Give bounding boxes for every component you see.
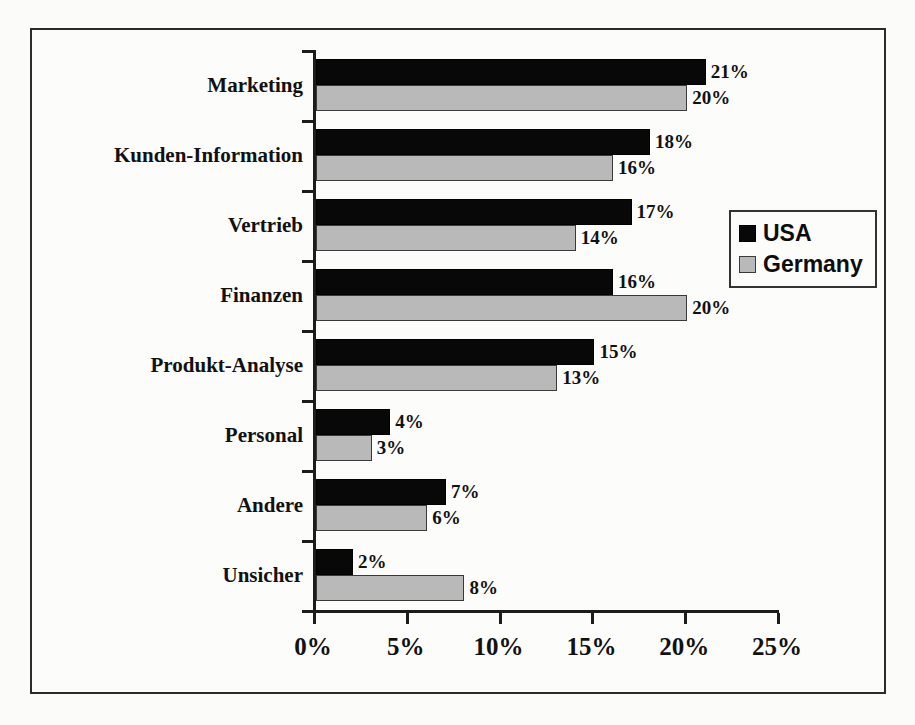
bar-germany[interactable] [316, 295, 687, 321]
bar-group: 21%20% [316, 59, 777, 111]
category-tick [302, 50, 313, 53]
category-label: Marketing [207, 73, 303, 98]
bar-usa[interactable] [316, 269, 613, 295]
bar-germany[interactable] [316, 435, 372, 461]
bar-group: 18%16% [316, 129, 777, 181]
bar-value-label: 16% [613, 271, 656, 293]
x-tick [313, 613, 316, 624]
bar-usa[interactable] [316, 479, 446, 505]
bar-usa[interactable] [316, 409, 390, 435]
bar-group: 15%13% [316, 339, 777, 391]
bar-value-label: 21% [706, 61, 749, 83]
category-label: Vertrieb [228, 213, 303, 238]
category-label: Unsicher [223, 563, 304, 588]
bar-usa[interactable] [316, 339, 594, 365]
category-tick [302, 470, 313, 473]
bar-value-label: 6% [427, 507, 461, 529]
category-tick [302, 610, 313, 613]
category-tick [302, 260, 313, 263]
bar-row: 4% [316, 409, 777, 435]
bar-germany[interactable] [316, 505, 427, 531]
category-label: Kunden-Information [114, 143, 303, 168]
category-label: Produkt-Analyse [151, 353, 303, 378]
category-tick [302, 330, 313, 333]
chart-frame: MarketingKunden-InformationVertriebFinan… [30, 28, 886, 694]
x-tick-label: 25% [752, 633, 802, 661]
x-tick [591, 613, 594, 624]
bar-row: 21% [316, 59, 777, 85]
chart-legend: USA Germany [729, 210, 877, 288]
bar-value-label: 8% [464, 577, 498, 599]
bar-value-label: 14% [576, 227, 619, 249]
x-tick-label: 15% [566, 633, 616, 661]
bar-value-label: 17% [632, 201, 675, 223]
black-square-swatch-icon [739, 225, 756, 242]
bar-germany[interactable] [316, 85, 687, 111]
bar-value-label: 18% [650, 131, 693, 153]
bar-value-label: 20% [687, 297, 730, 319]
bar-value-label: 7% [446, 481, 480, 503]
category-label: Personal [225, 423, 303, 448]
category-tick [302, 190, 313, 193]
x-tick [406, 613, 409, 624]
bar-germany[interactable] [316, 155, 613, 181]
bar-row: 13% [316, 365, 777, 391]
bar-group: 4%3% [316, 409, 777, 461]
legend-label-germany: Germany [763, 253, 863, 276]
bar-row: 16% [316, 155, 777, 181]
bar-row: 16% [316, 269, 777, 295]
category-label: Andere [237, 493, 303, 518]
screenshot-page: MarketingKunden-InformationVertriebFinan… [0, 0, 915, 725]
bar-usa[interactable] [316, 59, 706, 85]
category-label: Finanzen [220, 283, 303, 308]
category-tick [302, 540, 313, 543]
legend-label-usa: USA [763, 222, 812, 245]
plot-area: 21%20%18%16%17%14%16%20%15%13%4%3%7%6%2%… [313, 50, 777, 610]
category-axis-labels: MarketingKunden-InformationVertriebFinan… [32, 50, 303, 610]
x-tick [499, 613, 502, 624]
bar-germany[interactable] [316, 225, 576, 251]
legend-item-germany: Germany [739, 249, 867, 280]
bar-usa[interactable] [316, 199, 632, 225]
bar-value-label: 2% [353, 551, 387, 573]
bar-usa[interactable] [316, 129, 650, 155]
legend-item-usa: USA [739, 218, 867, 249]
bar-row: 8% [316, 575, 777, 601]
bar-row: 2% [316, 549, 777, 575]
bar-group: 17%14% [316, 199, 777, 251]
x-tick-label: 20% [659, 633, 709, 661]
bar-row: 20% [316, 295, 777, 321]
bar-row: 18% [316, 129, 777, 155]
bar-group: 7%6% [316, 479, 777, 531]
bar-row: 20% [316, 85, 777, 111]
bar-row: 3% [316, 435, 777, 461]
x-tick-label: 10% [474, 633, 524, 661]
bar-group: 16%20% [316, 269, 777, 321]
bar-row: 15% [316, 339, 777, 365]
x-tick [684, 613, 687, 624]
bar-value-label: 15% [594, 341, 637, 363]
bar-value-label: 4% [390, 411, 424, 433]
bar-usa[interactable] [316, 549, 353, 575]
x-axis-line [313, 610, 779, 613]
x-tick-label: 0% [294, 633, 332, 661]
bar-row: 17% [316, 199, 777, 225]
bar-row: 14% [316, 225, 777, 251]
bar-row: 7% [316, 479, 777, 505]
bar-group: 2%8% [316, 549, 777, 601]
bar-row: 6% [316, 505, 777, 531]
bar-value-label: 3% [372, 437, 406, 459]
bar-germany[interactable] [316, 365, 557, 391]
bar-value-label: 13% [557, 367, 600, 389]
bar-value-label: 16% [613, 157, 656, 179]
category-tick [302, 120, 313, 123]
bar-germany[interactable] [316, 575, 464, 601]
category-tick [302, 400, 313, 403]
bar-value-label: 20% [687, 87, 730, 109]
x-tick-label: 5% [387, 633, 425, 661]
gray-square-swatch-icon [739, 256, 756, 273]
x-tick [777, 613, 780, 624]
